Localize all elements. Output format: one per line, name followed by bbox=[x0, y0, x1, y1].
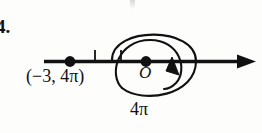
exercise-number: 4. bbox=[0, 16, 10, 38]
angle-label: 4π bbox=[130, 99, 148, 120]
polar-coordinate-figure: 4. (−3, 4π) O 4π bbox=[0, 0, 262, 133]
spiral-arrowhead-icon bbox=[166, 57, 179, 75]
origin-label: O bbox=[139, 63, 151, 83]
axis-arrowhead-icon bbox=[237, 55, 256, 69]
point-coordinate-label: (−3, 4π) bbox=[26, 66, 84, 87]
spiral-outer-loop bbox=[112, 35, 196, 96]
